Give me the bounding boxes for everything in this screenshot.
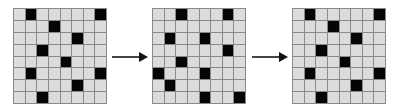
empty-cell <box>49 68 60 79</box>
empty-cell <box>188 57 199 68</box>
empty-cell <box>374 57 385 68</box>
filled-cell <box>316 45 327 56</box>
empty-cell <box>200 57 211 68</box>
empty-cell <box>49 33 60 44</box>
empty-cell <box>95 21 106 32</box>
empty-cell <box>305 80 316 91</box>
empty-cell <box>26 92 37 103</box>
empty-cell <box>211 33 222 44</box>
empty-cell <box>328 92 339 103</box>
empty-cell <box>293 9 304 20</box>
empty-cell <box>374 92 385 103</box>
empty-cell <box>211 68 222 79</box>
empty-cell <box>72 68 83 79</box>
empty-cell <box>223 80 234 91</box>
empty-cell <box>95 80 106 91</box>
filled-cell <box>26 9 37 20</box>
empty-cell <box>351 68 362 79</box>
empty-cell <box>165 92 176 103</box>
empty-cell <box>176 92 187 103</box>
empty-cell <box>84 68 95 79</box>
filled-cell <box>176 57 187 68</box>
empty-cell <box>234 68 245 79</box>
empty-cell <box>14 57 25 68</box>
filled-cell <box>37 92 48 103</box>
empty-cell <box>351 9 362 20</box>
empty-cell <box>176 68 187 79</box>
empty-cell <box>305 33 316 44</box>
empty-cell <box>84 9 95 20</box>
empty-cell <box>363 92 374 103</box>
empty-cell <box>340 92 351 103</box>
empty-cell <box>14 45 25 56</box>
empty-cell <box>61 33 72 44</box>
empty-cell <box>234 21 245 32</box>
filled-cell <box>305 68 316 79</box>
grid-3 <box>292 8 386 104</box>
filled-cell <box>200 68 211 79</box>
empty-cell <box>188 33 199 44</box>
empty-cell <box>153 9 164 20</box>
empty-cell <box>26 33 37 44</box>
filled-cell <box>351 33 362 44</box>
filled-cell <box>200 33 211 44</box>
empty-cell <box>340 9 351 20</box>
empty-cell <box>340 80 351 91</box>
empty-cell <box>49 80 60 91</box>
empty-cell <box>61 21 72 32</box>
empty-cell <box>37 21 48 32</box>
empty-cell <box>95 45 106 56</box>
empty-cell <box>200 21 211 32</box>
empty-cell <box>223 68 234 79</box>
empty-cell <box>374 45 385 56</box>
empty-cell <box>316 80 327 91</box>
empty-cell <box>26 45 37 56</box>
empty-cell <box>328 45 339 56</box>
empty-cell <box>316 9 327 20</box>
filled-cell <box>340 57 351 68</box>
filled-cell <box>176 9 187 20</box>
empty-cell <box>61 92 72 103</box>
empty-cell <box>316 57 327 68</box>
empty-cell <box>188 68 199 79</box>
empty-cell <box>351 57 362 68</box>
empty-cell <box>223 33 234 44</box>
empty-cell <box>234 57 245 68</box>
filled-cell <box>37 45 48 56</box>
filled-cell <box>95 9 106 20</box>
empty-cell <box>363 33 374 44</box>
empty-cell <box>363 21 374 32</box>
filled-cell <box>223 45 234 56</box>
empty-cell <box>153 92 164 103</box>
empty-cell <box>211 57 222 68</box>
grid-2 <box>152 8 246 104</box>
empty-cell <box>61 9 72 20</box>
empty-cell <box>211 9 222 20</box>
empty-cell <box>84 80 95 91</box>
filled-cell <box>72 80 83 91</box>
empty-cell <box>234 45 245 56</box>
empty-cell <box>153 45 164 56</box>
empty-cell <box>165 45 176 56</box>
empty-cell <box>363 9 374 20</box>
empty-cell <box>374 33 385 44</box>
empty-cell <box>49 92 60 103</box>
empty-cell <box>26 80 37 91</box>
filled-cell <box>351 80 362 91</box>
empty-cell <box>176 80 187 91</box>
filled-cell <box>374 68 385 79</box>
empty-cell <box>176 21 187 32</box>
empty-cell <box>95 57 106 68</box>
empty-cell <box>72 45 83 56</box>
filled-cell <box>223 9 234 20</box>
empty-cell <box>188 45 199 56</box>
empty-cell <box>211 21 222 32</box>
empty-cell <box>14 33 25 44</box>
empty-cell <box>340 33 351 44</box>
empty-cell <box>165 57 176 68</box>
filled-cell <box>305 9 316 20</box>
empty-cell <box>176 33 187 44</box>
filled-cell <box>49 21 60 32</box>
empty-cell <box>211 80 222 91</box>
filled-cell <box>234 92 245 103</box>
